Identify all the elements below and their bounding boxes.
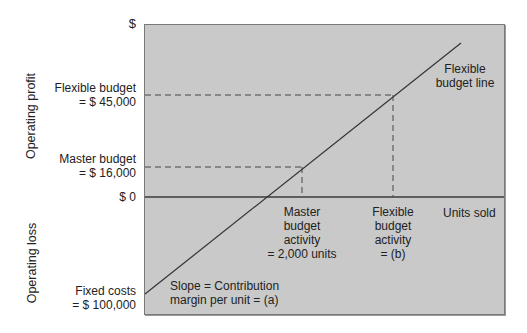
slope-annotation: Slope = Contribution margin per unit = (… xyxy=(170,279,279,307)
master-activity-label: Master budget activity = 2,000 units xyxy=(262,205,342,261)
flexible-budget-y-label-1: Flexible budget xyxy=(40,81,136,95)
slope-annotation-line-1: Slope = Contribution xyxy=(170,279,279,293)
units-sold-label: Units sold xyxy=(443,206,496,220)
y-tick-dollar: $ xyxy=(110,17,136,31)
slope-annotation-line-2: margin per unit = (a) xyxy=(170,293,279,307)
flexible-budget-y-label-2: = $ 45,000 xyxy=(40,95,136,109)
master-activity-line-2: budget xyxy=(262,219,342,233)
flexible-activity-line-3: activity xyxy=(363,233,423,247)
operating-loss-label: Operating loss xyxy=(25,213,41,313)
flexible-budget-y-label: Flexible budget = $ 45,000 xyxy=(40,81,136,109)
master-budget-y-label-1: Master budget xyxy=(40,152,136,166)
flexible-budget-line-label: Flexible budget line xyxy=(430,62,500,90)
flexible-activity-line-2: budget xyxy=(363,219,423,233)
master-activity-line-3: activity xyxy=(262,233,342,247)
fixed-costs-y-label-2: = $ 100,000 xyxy=(40,298,136,312)
y-tick-zero: $ 0 xyxy=(80,190,136,204)
flexible-budget-line-label-2: budget line xyxy=(430,76,500,90)
fixed-costs-y-label-1: Fixed costs xyxy=(40,284,136,298)
flexible-budget-line-label-1: Flexible xyxy=(430,62,500,76)
operating-profit-label: Operating profit xyxy=(24,61,40,171)
fixed-costs-y-label: Fixed costs = $ 100,000 xyxy=(40,284,136,312)
flexible-activity-label: Flexible budget activity = (b) xyxy=(363,205,423,261)
flexible-activity-line-4: = (b) xyxy=(363,247,423,261)
master-budget-y-label: Master budget = $ 16,000 xyxy=(40,152,136,180)
master-activity-line-1: Master xyxy=(262,205,342,219)
master-activity-line-4: = 2,000 units xyxy=(262,247,342,261)
master-budget-y-label-2: = $ 16,000 xyxy=(40,166,136,180)
flexible-activity-line-1: Flexible xyxy=(363,205,423,219)
